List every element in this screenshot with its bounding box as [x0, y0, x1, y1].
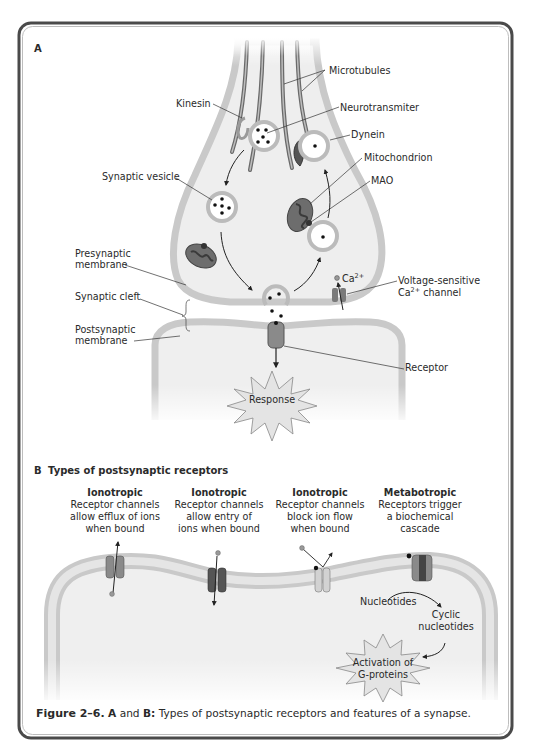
label-cyclic-nucleotides: Cyclic [432, 609, 460, 620]
svg-text:block ion flow: block ion flow [287, 511, 353, 522]
svg-text:Metabotropic: Metabotropic [384, 487, 457, 498]
cell-membrane-b [40, 560, 500, 705]
svg-text:Ionotropic: Ionotropic [292, 487, 348, 498]
label-mao: MAO [371, 175, 394, 186]
figure-caption: Figure 2–6. A and B: Types of postsynapt… [36, 707, 471, 720]
ca-ion [335, 276, 340, 281]
svg-text:ions when bound: ions when bound [178, 523, 260, 534]
label-g-proteins: G-proteins [358, 669, 408, 680]
label-nucleotides: Nucleotides [360, 596, 416, 607]
svg-text:Ionotropic: Ionotropic [87, 487, 143, 498]
label-synaptic-cleft: Synaptic cleft [75, 291, 141, 302]
synapse-figure: A [0, 0, 533, 753]
svg-text:when bound: when bound [85, 523, 144, 534]
label-microtubules: Microtubules [329, 65, 390, 76]
label-synaptic-vesicle: Synaptic vesicle [102, 171, 180, 182]
svg-text:Receptors trigger: Receptors trigger [378, 499, 461, 510]
vesicle-neurotransmitter [250, 122, 278, 150]
panel-b-title: Types of postsynaptic receptors [48, 465, 228, 476]
svg-text:Receptor channels: Receptor channels [276, 499, 365, 510]
label-receptor: Receptor [405, 362, 448, 373]
svg-text:Receptor channels: Receptor channels [71, 499, 160, 510]
vesicle-recycling [309, 222, 337, 250]
svg-text:allow entry of: allow entry of [186, 511, 252, 522]
svg-text:Ionotropic: Ionotropic [191, 487, 247, 498]
label-mitochondrion: Mitochondrion [364, 152, 433, 163]
label-postsynaptic-membrane-2: membrane [75, 335, 128, 346]
svg-text:when bound: when bound [290, 523, 349, 534]
mao-enzyme [306, 220, 312, 226]
svg-text:cascade: cascade [400, 523, 439, 534]
svg-text:Receptor channels: Receptor channels [175, 499, 264, 510]
svg-text:allow efflux of ions: allow efflux of ions [70, 511, 160, 522]
label-cyclic-nucleotides-2: nucleotides [418, 621, 473, 632]
response-label: Response [249, 394, 295, 405]
label-presynaptic-membrane: Presynaptic [75, 248, 131, 259]
label-voltage-channel: Voltage-sensitive [398, 275, 480, 286]
vesicle-recycled-top [300, 132, 328, 160]
label-presynaptic-membrane-2: membrane [75, 259, 128, 270]
label-voltage-channel-2: Ca2+ channel [398, 286, 461, 298]
label-dynein: Dynein [351, 129, 385, 140]
panel-a-letter: A [34, 43, 42, 54]
label-kinesin: Kinesin [176, 98, 211, 109]
label-postsynaptic-membrane: Postsynaptic [75, 324, 136, 335]
panel-b-letter: B [34, 465, 42, 476]
label-neurotransmitter: Neurotransmiter [340, 102, 419, 113]
label-activation: Activation of [353, 657, 414, 668]
svg-text:a biochemical: a biochemical [387, 511, 454, 522]
synaptic-vesicle [208, 193, 236, 221]
